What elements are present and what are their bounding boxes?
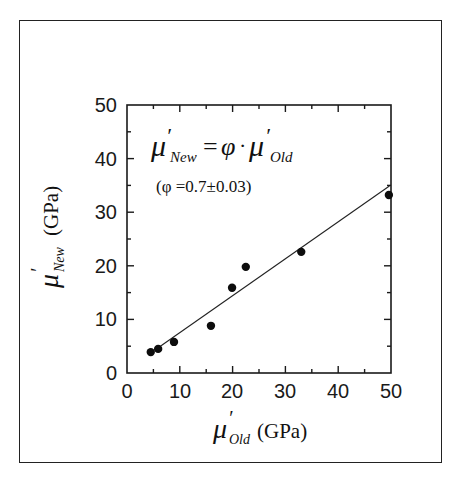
x-label-unit: (GPa) bbox=[257, 419, 307, 443]
eq-dot: · bbox=[239, 133, 246, 158]
y-label-unit: (GPa) bbox=[39, 186, 63, 236]
data-point bbox=[228, 284, 236, 292]
data-point bbox=[170, 338, 178, 346]
y-label-prime: ′ bbox=[27, 268, 49, 273]
x-tick-labels: 0 10 20 30 40 50 bbox=[121, 380, 402, 402]
eq-rhs-mu: μ bbox=[248, 129, 264, 162]
x-tick-50: 50 bbox=[380, 380, 402, 402]
svg-text:μ: μ bbox=[150, 129, 166, 162]
y-tick-labels: 0 10 20 30 40 50 bbox=[95, 94, 117, 384]
x-tick-30: 30 bbox=[274, 380, 296, 402]
x-axis-label: μ ′ Old (GPa) bbox=[212, 407, 307, 447]
x-label-sub: Old bbox=[229, 432, 251, 447]
y-label-mu: μ bbox=[33, 274, 64, 289]
y-label-sub: New bbox=[52, 246, 67, 273]
y-tick-10: 10 bbox=[95, 308, 117, 330]
y-tick-30: 30 bbox=[95, 201, 117, 223]
eq-rhs-sub: Old bbox=[270, 149, 293, 165]
x-label-prime: ′ bbox=[228, 407, 233, 429]
eq-lhs-prime: ′ bbox=[166, 123, 172, 148]
eq-equals: = bbox=[203, 132, 218, 161]
fit-line bbox=[155, 186, 389, 350]
data-point bbox=[207, 322, 215, 330]
scatter-chart: 0 10 20 30 40 50 0 10 20 30 40 50 μ ′ Ne… bbox=[0, 0, 456, 478]
equation-annotation: μ ′ New = φ · μ ′ Old bbox=[150, 123, 293, 165]
y-tick-0: 0 bbox=[106, 362, 117, 384]
x-tick-10: 10 bbox=[169, 380, 191, 402]
data-point bbox=[154, 345, 162, 353]
phi-note: (φ =0.7±0.03) bbox=[156, 177, 251, 196]
y-tick-20: 20 bbox=[95, 255, 117, 277]
eq-phi: φ bbox=[221, 132, 235, 161]
x-tick-0: 0 bbox=[121, 380, 132, 402]
data-point bbox=[297, 248, 305, 256]
y-tick-50: 50 bbox=[95, 94, 117, 116]
eq-rhs-prime: ′ bbox=[265, 123, 271, 148]
y-axis-label: μ ′ New (GPa) bbox=[27, 186, 67, 289]
eq-lhs-sub: New bbox=[169, 149, 197, 165]
x-tick-20: 20 bbox=[221, 380, 243, 402]
data-points bbox=[147, 191, 394, 356]
data-point bbox=[242, 263, 250, 271]
x-tick-40: 40 bbox=[327, 380, 349, 402]
y-tick-40: 40 bbox=[95, 148, 117, 170]
eq-lhs-mu: μ bbox=[150, 129, 166, 162]
data-point bbox=[147, 348, 155, 356]
data-point bbox=[385, 191, 393, 199]
x-label-mu: μ bbox=[212, 413, 227, 444]
